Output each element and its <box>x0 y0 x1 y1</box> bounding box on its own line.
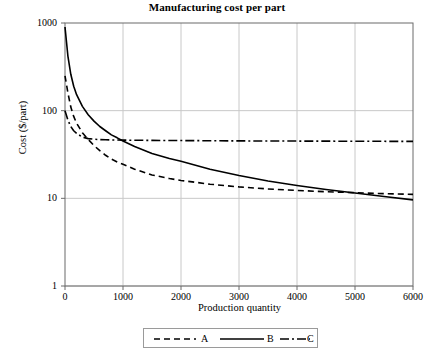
x-tick-label: 6000 <box>388 292 434 302</box>
x-tick-label: 5000 <box>330 292 380 302</box>
gridlines <box>65 23 413 286</box>
y-tick-label: 10 <box>17 193 57 203</box>
y-tick-label: 1000 <box>17 18 57 28</box>
legend-label-B: B <box>267 334 274 344</box>
x-tick-label: 3000 <box>214 292 264 302</box>
legend-swatches <box>144 329 317 347</box>
legend-label-C: C <box>307 334 314 344</box>
plot-area <box>0 0 434 359</box>
y-tick-label: 1 <box>17 281 57 291</box>
chart-figure: Manufacturing cost per part Cost ($/part… <box>0 0 434 359</box>
x-tick-label: 1000 <box>98 292 148 302</box>
legend-label-A: A <box>201 334 208 344</box>
x-tick-label: 2000 <box>156 292 206 302</box>
y-tick-label: 100 <box>17 106 57 116</box>
chart-legend: ABC <box>143 328 318 348</box>
axis-ticks <box>61 23 413 290</box>
x-tick-label: 4000 <box>272 292 322 302</box>
x-tick-label: 0 <box>40 292 90 302</box>
